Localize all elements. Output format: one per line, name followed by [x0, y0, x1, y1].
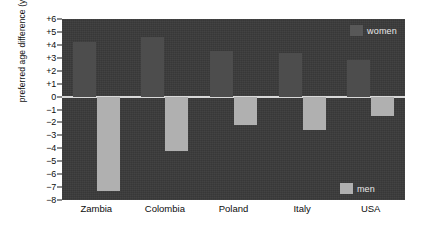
- y-tick-label: 0: [51, 92, 56, 101]
- x-axis-labels: ZambiaColombiaPolandItalyUSA: [62, 203, 405, 221]
- bar-women-italy: [279, 53, 302, 97]
- y-tick-label: +1: [46, 79, 56, 88]
- x-tick-label-italy: Italy: [293, 203, 310, 214]
- bar-women-zambia: [73, 42, 96, 96]
- legend-swatch-men-icon: [340, 183, 353, 194]
- plot-area: women men: [62, 19, 405, 200]
- legend-item-women: women: [350, 25, 397, 36]
- y-tick-label: +5: [46, 27, 56, 36]
- y-tick-label: −5: [46, 157, 56, 166]
- bar-men-colombia: [165, 97, 188, 151]
- y-tick-label: −6: [46, 170, 56, 179]
- chart-figure: preferred age difference (years) +6+5+4+…: [0, 0, 421, 235]
- y-tick-label: −3: [46, 131, 56, 140]
- y-tick-label: +3: [46, 53, 56, 62]
- legend-label-women: women: [367, 26, 397, 36]
- x-tick-label-poland: Poland: [219, 203, 249, 214]
- x-tick-label-usa: USA: [361, 203, 381, 214]
- x-tick-label-colombia: Colombia: [145, 203, 185, 214]
- y-tick-label: −7: [46, 183, 56, 192]
- y-tick-label: −8: [46, 196, 56, 205]
- bar-men-poland: [234, 97, 257, 125]
- bar-men-usa: [371, 97, 394, 116]
- legend-swatch-women-icon: [350, 25, 363, 36]
- legend-item-men: men: [340, 183, 375, 194]
- y-tick-label: −4: [46, 144, 56, 153]
- bar-women-colombia: [141, 37, 164, 96]
- y-tick-label: −2: [46, 118, 56, 127]
- y-tick-label: −1: [46, 105, 56, 114]
- y-tick-label: +6: [46, 15, 56, 24]
- bar-men-italy: [303, 97, 326, 131]
- bar-women-poland: [210, 51, 233, 96]
- bar-women-usa: [347, 60, 370, 96]
- x-tick-label-zambia: Zambia: [80, 203, 112, 214]
- y-tick-label: +2: [46, 66, 56, 75]
- y-tick-label: +4: [46, 40, 56, 49]
- bar-men-zambia: [97, 97, 120, 191]
- legend-label-men: men: [357, 184, 375, 194]
- y-axis-ticks: +6+5+4+3+2+10−1−2−3−4−5−6−7−8: [22, 14, 62, 200]
